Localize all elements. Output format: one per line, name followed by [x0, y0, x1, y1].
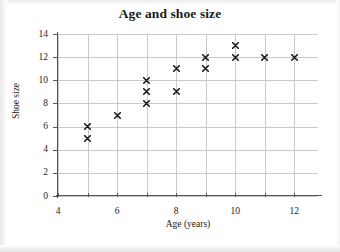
- plot-area: [58, 34, 318, 196]
- y-tick-label-text: 4: [26, 144, 48, 154]
- data-point: [173, 65, 180, 72]
- x-tick-label-text: 12: [290, 206, 300, 216]
- y-axis-tick: [53, 127, 57, 128]
- y-axis-tick-label: 8: [24, 98, 48, 108]
- gridline-horizontal: [58, 127, 318, 128]
- y-axis-tick: [53, 80, 57, 81]
- x-axis-tick: [58, 193, 59, 197]
- gridline-horizontal: [58, 34, 318, 35]
- y-tick-label-text: 6: [26, 121, 48, 131]
- y-axis-tick-label: 10: [24, 75, 48, 85]
- chart-title: Age and shoe size: [0, 6, 340, 22]
- y-axis-tick-label: 0: [24, 191, 48, 201]
- gridline-vertical: [88, 34, 89, 196]
- gridline-vertical: [176, 34, 177, 196]
- gridline-vertical: [147, 34, 148, 196]
- x-axis-tick: [147, 193, 148, 197]
- y-axis-tick-label: 12: [24, 52, 48, 62]
- x-axis-tick-label: 6: [105, 200, 129, 212]
- data-point: [143, 100, 150, 107]
- data-point: [232, 54, 239, 61]
- data-point: [202, 54, 209, 61]
- x-tick-label-text: 10: [231, 206, 241, 216]
- y-tick-label-text: 12: [26, 52, 48, 62]
- y-axis-tick: [53, 103, 57, 104]
- data-point: [232, 42, 239, 49]
- data-point: [291, 54, 298, 61]
- y-axis-tick: [53, 173, 57, 174]
- x-tick-label-text: 4: [56, 206, 61, 216]
- data-point: [202, 65, 209, 72]
- y-axis-tick-label: 4: [24, 144, 48, 154]
- y-tick-label-text: 2: [26, 167, 48, 177]
- x-axis-tick: [176, 193, 177, 197]
- y-axis-tick: [53, 150, 57, 151]
- x-tick-label-text: 6: [115, 206, 120, 216]
- y-axis-tick-label: 2: [24, 167, 48, 177]
- data-point: [84, 135, 91, 142]
- gridline-horizontal: [58, 57, 318, 58]
- page-edge-top: [0, 0, 340, 5]
- y-axis-title: Shoe size: [11, 61, 21, 141]
- data-point: [143, 77, 150, 84]
- x-axis-tick: [117, 193, 118, 197]
- page-edge-left: [0, 0, 7, 252]
- data-point: [173, 88, 180, 95]
- x-axis-tick-label: 8: [164, 200, 188, 212]
- x-axis-title: Age (years): [58, 219, 318, 229]
- y-axis-tick: [53, 57, 57, 58]
- y-tick-label-text: 0: [26, 191, 48, 201]
- x-axis-tick: [265, 193, 266, 197]
- y-tick-label-text: 8: [26, 98, 48, 108]
- y-axis-tick-label: 6: [24, 121, 48, 131]
- x-axis-tick-label: 10: [223, 200, 247, 212]
- x-axis-tick: [88, 193, 89, 197]
- x-axis-tick-label: 12: [282, 200, 306, 212]
- y-axis-tick-label: 14: [24, 29, 48, 39]
- x-axis-tick: [235, 193, 236, 197]
- gridline-horizontal: [58, 150, 318, 151]
- gridline-horizontal: [58, 103, 318, 104]
- y-axis-tick: [53, 196, 57, 197]
- x-axis-tick-label: 4: [46, 200, 70, 212]
- data-point: [143, 88, 150, 95]
- chart-page: Age and shoe size 02468101214 4681012 Sh…: [0, 0, 340, 252]
- y-axis-line: [57, 32, 58, 198]
- page-edge-bottom: [0, 245, 340, 252]
- x-axis-tick: [206, 193, 207, 197]
- x-axis-tick: [294, 193, 295, 197]
- data-point: [114, 112, 121, 119]
- gridline-horizontal: [58, 80, 318, 81]
- y-tick-label-text: 10: [26, 75, 48, 85]
- page-edge-right: [336, 0, 340, 252]
- data-point: [84, 123, 91, 130]
- x-axis-line: [56, 195, 322, 196]
- gridline-horizontal: [58, 173, 318, 174]
- y-tick-label-text: 14: [26, 29, 48, 39]
- y-axis-tick: [53, 34, 57, 35]
- data-point: [261, 54, 268, 61]
- x-tick-label-text: 8: [174, 206, 179, 216]
